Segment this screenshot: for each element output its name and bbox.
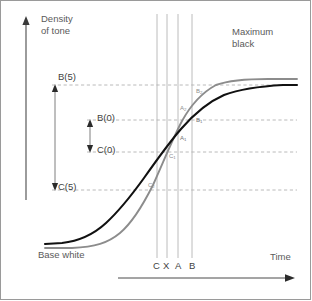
y-axis (22, 16, 29, 200)
curve-light (45, 79, 297, 248)
point-label-c2: C2 (148, 182, 155, 190)
tick-label-x: X (163, 261, 170, 272)
x-axis-time-arrow (118, 274, 295, 281)
point-label-a1: A1 (180, 135, 186, 143)
figure-canvas: Density of tone Maximum black B(5) B(0) … (0, 0, 312, 301)
tick-label-c: C (153, 261, 160, 272)
maximum-black-note-line2: black (232, 39, 254, 50)
tick-label-a: A (175, 261, 182, 272)
x-axis-label: Time (270, 252, 291, 263)
measure-label-c5: C(5) (58, 182, 76, 193)
y-axis-label-line1: Density (41, 14, 73, 25)
measure-b0-c0 (87, 119, 93, 153)
maximum-black-note-line1: Maximum (232, 27, 273, 38)
measure-b5-c5 (52, 84, 58, 191)
curve-dark (45, 85, 297, 244)
tick-label-b: B (189, 261, 196, 272)
point-label-c1: C1 (169, 153, 176, 161)
point-label-b1: B1 (196, 117, 202, 125)
measure-label-b0: B(0) (97, 113, 115, 124)
measure-label-c0: C(0) (97, 145, 115, 156)
point-label-a2: A2 (180, 105, 186, 113)
measure-label-b5: B(5) (58, 72, 76, 83)
base-white-note: Base white (38, 250, 84, 261)
point-label-b2: B2 (196, 88, 202, 96)
y-axis-label-line2: of tone (41, 26, 70, 37)
